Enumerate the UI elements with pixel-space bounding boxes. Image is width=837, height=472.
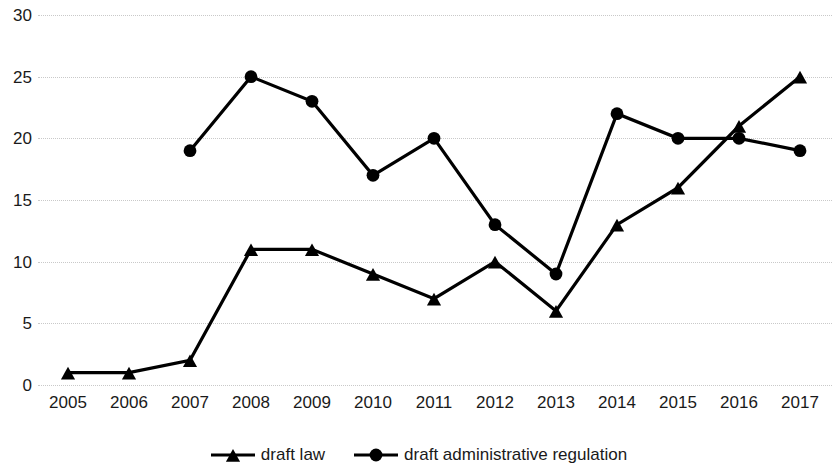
legend-label: draft administrative regulation: [404, 445, 627, 465]
series-layer: [38, 15, 832, 385]
y-tick-label: 0: [2, 377, 32, 394]
data-point-circle: [794, 144, 807, 157]
y-tick-label: 30: [2, 7, 32, 24]
y-tick-label: 15: [2, 192, 32, 209]
data-point-triangle: [488, 256, 502, 269]
x-tick-label: 2013: [537, 393, 575, 413]
x-tick-label: 2009: [293, 393, 331, 413]
y-tick-label: 10: [2, 254, 32, 271]
legend-label: draft law: [261, 445, 325, 465]
y-axis: 051015202530: [0, 0, 32, 400]
data-point-circle: [489, 218, 502, 231]
chart-legend: draft lawdraft administrative regulation: [0, 440, 837, 470]
data-point-circle: [672, 132, 685, 145]
legend-entry: draft law: [210, 445, 325, 465]
x-tick-label: 2014: [598, 393, 636, 413]
plot-area: [38, 15, 832, 385]
series-draft-law: [61, 71, 807, 380]
x-tick-label: 2007: [171, 393, 209, 413]
x-tick-label: 2017: [781, 393, 819, 413]
data-point-circle: [428, 132, 441, 145]
data-point-circle: [550, 268, 563, 281]
x-tick-label: 2005: [49, 393, 87, 413]
data-point-circle: [367, 169, 380, 182]
data-point-circle: [184, 144, 197, 157]
x-tick-label: 2015: [659, 393, 697, 413]
x-axis: 2005200620072008200920102011201220132014…: [38, 393, 832, 419]
y-tick-label: 5: [2, 315, 32, 332]
x-tick-label: 2016: [720, 393, 758, 413]
data-point-circle: [733, 132, 746, 145]
x-tick-label: 2010: [354, 393, 392, 413]
y-tick-label: 25: [2, 69, 32, 86]
x-tick-label: 2008: [232, 393, 270, 413]
x-tick-label: 2006: [110, 393, 148, 413]
legend-triangle-icon: [210, 446, 256, 464]
legend-entry: draft administrative regulation: [353, 445, 627, 465]
gridline: [38, 385, 832, 386]
data-point-circle: [245, 70, 258, 83]
data-point-circle: [306, 95, 319, 108]
data-point-triangle: [793, 71, 807, 84]
series-line: [68, 77, 800, 373]
x-tick-label: 2011: [416, 393, 453, 413]
y-tick-label: 20: [2, 130, 32, 147]
line-chart: 051015202530 200520062007200820092010201…: [0, 0, 837, 472]
data-point-circle: [611, 107, 624, 120]
legend-circle-icon: [353, 446, 399, 464]
series-line: [190, 77, 800, 274]
x-tick-label: 2012: [476, 393, 514, 413]
